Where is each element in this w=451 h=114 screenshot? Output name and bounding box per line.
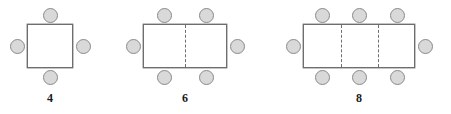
seat-bottom-3 (390, 70, 405, 85)
figure-label-8: 8 (356, 92, 362, 104)
seat-top-2 (352, 8, 367, 23)
seat-top-1 (315, 8, 330, 23)
table-section-divider (378, 25, 379, 67)
seat-bottom-2 (352, 70, 367, 85)
seat-left-1 (286, 39, 301, 54)
diagram-canvas: 468 (0, 0, 451, 114)
table-top-8 (303, 24, 415, 68)
seat-top-3 (390, 8, 405, 23)
table-section-divider (341, 25, 342, 67)
table-figure-8: 8 (0, 0, 451, 114)
seat-bottom-1 (315, 70, 330, 85)
seat-right-1 (418, 39, 433, 54)
